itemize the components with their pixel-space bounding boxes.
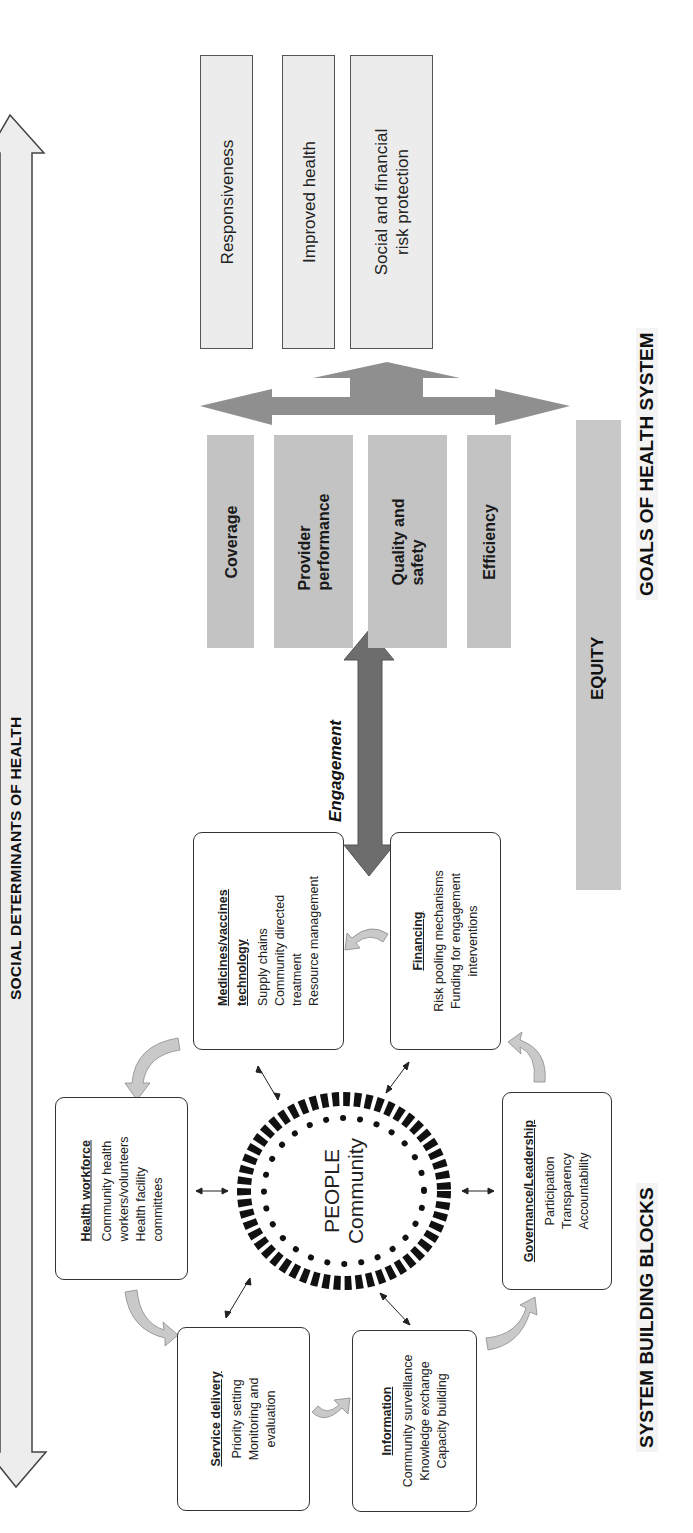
block-item: Knowledge exchange [417,1355,434,1488]
perf-label: Provider performance [295,493,333,590]
block-content: Information Community surveillance Knowl… [379,1355,451,1488]
people-community-label: PEOPLE Community [320,1138,368,1244]
block-health-workforce: Health workforce Community health worker… [55,1097,188,1280]
block-item: interventions [465,870,482,1012]
goal-box-risk-protection: Social and financial risk protection [350,55,433,349]
perf-label: Coverage [221,505,240,578]
perf-label-line1: Coverage [222,505,239,578]
block-item: evaluation [263,1371,280,1466]
block-item: Community surveillance [400,1355,417,1488]
goal-label-line2: risk protection [393,149,412,255]
block-title: Information [379,1355,396,1488]
block-content: Medicines/vaccines technology Supply cha… [215,876,323,1006]
block-title: Financing [410,870,427,1012]
goal-label: Improved health [298,141,319,263]
goal-label: Responsiveness [216,140,237,265]
perf-box-efficiency: Efficiency [467,435,511,648]
block-financing: Financing Risk pooling mechanisms Fundin… [390,832,501,1050]
block-item: Supply chains [255,876,272,1006]
goal-box-improved-health: Improved health [282,55,335,349]
goal-label-line1: Social and financial [372,129,391,275]
perf-label-line1: Efficiency [481,504,498,580]
block-item: committees [149,1136,166,1241]
people-label: PEOPLE [320,1149,343,1233]
block-title: Governance/Leadership [521,1120,538,1262]
goal-box-responsiveness: Responsiveness [200,55,253,349]
perf-box-coverage: Coverage [207,435,254,648]
block-service-delivery: Service delivery Priority setting Monito… [177,1327,310,1511]
block-item: Transparency [559,1120,576,1262]
block-item: Community health [98,1136,115,1241]
block-information: Information Community surveillance Knowl… [352,1330,477,1512]
block-item: Capacity building [434,1355,451,1488]
engagement-label: Engagement [326,720,346,822]
perf-label: Efficiency [480,504,499,580]
social-determinants-label: SOCIAL DETERMINANTS OF HEALTH [7,717,25,1000]
block-content: Health workforce Community health worker… [77,1136,166,1241]
perf-label: Quality and safety [389,498,427,585]
diagram-graphics [0,0,693,1533]
block-title: Service delivery [208,1371,225,1466]
block-item: Funding for engagement [448,870,465,1012]
block-title: technology [234,876,251,1006]
block-item: Health facility [132,1136,149,1241]
block-title: Medicines/vaccines [215,876,232,1006]
block-item: Accountability [576,1120,593,1262]
block-item: Community directed [272,876,289,1006]
block-content: Governance/Leadership Participation Tran… [521,1120,593,1262]
block-content: Service delivery Priority setting Monito… [208,1371,280,1466]
block-title: Health workforce [77,1136,94,1241]
community-label: Community [344,1138,367,1244]
block-item: Participation [542,1120,559,1262]
block-item: workers/volunteers [115,1136,132,1241]
perf-label-line2: performance [315,493,332,590]
block-item: Monitoring and [246,1371,263,1466]
block-item: treatment [289,876,306,1006]
perf-label-line2: safety [409,539,426,585]
outcomes-arrow [200,362,570,425]
block-item: Risk pooling mechanisms [431,870,448,1012]
goals-heading: GOALS OF HEALTH SYSTEM [636,328,658,600]
equity-label: EQUITY [588,637,608,700]
perf-box-provider-performance: Provider performance [274,435,353,648]
block-governance-leadership: Governance/Leadership Participation Tran… [502,1092,612,1290]
perf-box-quality-safety: Quality and safety [368,435,447,648]
building-blocks-heading: SYSTEM BUILDING BLOCKS [636,1183,658,1452]
goal-label: Social and financial risk protection [371,129,413,275]
block-item: Priority setting [229,1371,246,1466]
perf-label-line1: Provider [296,525,313,590]
perf-label-line1: Quality and [390,498,407,585]
block-item: Resource management [306,876,323,1006]
engagement-arrow [344,630,394,876]
block-content: Financing Risk pooling mechanisms Fundin… [410,870,482,1012]
block-medicines-technology: Medicines/vaccines technology Supply cha… [193,832,344,1050]
